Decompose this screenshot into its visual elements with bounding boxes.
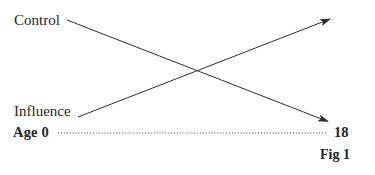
influence-arrow — [78, 19, 330, 117]
axis-start-label: Age 0 — [13, 125, 49, 140]
figure-caption: Fig 1 — [320, 148, 350, 162]
axis-end-label: 18 — [334, 125, 349, 140]
control-label: Control — [14, 13, 60, 28]
figure-container: Control Influence Age 0 18 Fig 1 — [0, 0, 375, 175]
influence-label: Influence — [14, 104, 71, 119]
